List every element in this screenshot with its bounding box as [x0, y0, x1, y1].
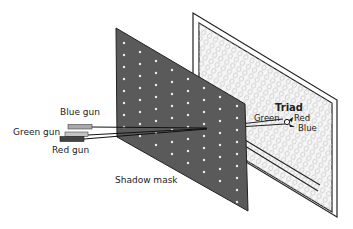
blue-gun — [68, 125, 92, 130]
blue-gun-label: Blue gun — [60, 108, 100, 117]
green-gun-label: Green gun — [13, 128, 60, 137]
red-gun-label: Red gun — [52, 146, 89, 155]
green-gun — [65, 132, 88, 137]
shadow-mask-label: Shadow mask — [115, 176, 178, 185]
red-gun — [60, 137, 84, 142]
triad-label: Triad — [275, 103, 303, 113]
triad-blue-label: Blue — [298, 124, 317, 133]
triad-green-label: Green — [254, 114, 280, 123]
triad-red-label: Red — [294, 114, 310, 123]
